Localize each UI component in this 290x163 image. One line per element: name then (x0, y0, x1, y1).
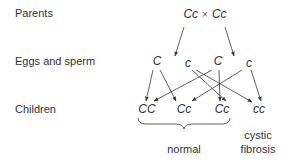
arrow-g4-to-child2 (192, 70, 242, 101)
arrow-g4-to-child4 (251, 70, 261, 101)
arrow-g2-to-child3 (192, 70, 226, 101)
arrow-g2-to-child4 (196, 70, 252, 102)
arrow-parent-right-to-gamete (225, 27, 234, 56)
arrow-g3-to-child3 (219, 70, 220, 101)
normal-brace (138, 118, 230, 129)
caption-cystic-fibrosis: cystic fibrosis (241, 128, 276, 156)
arrow-g1-to-child1 (146, 70, 153, 101)
arrow-parent-left-to-gamete (175, 27, 184, 56)
caption-fibrosis: fibrosis (241, 142, 276, 156)
caption-cystic: cystic (241, 128, 276, 142)
caption-normal: normal (167, 142, 201, 156)
